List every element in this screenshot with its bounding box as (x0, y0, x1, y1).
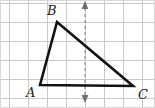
vertex-label-a: A (25, 85, 35, 100)
geometry-figure: A B C (0, 0, 155, 108)
vertex-label-b: B (46, 3, 57, 18)
figure-background (0, 0, 155, 108)
vertex-label-c: C (138, 87, 148, 102)
geometry-canvas: A B C (0, 0, 155, 108)
